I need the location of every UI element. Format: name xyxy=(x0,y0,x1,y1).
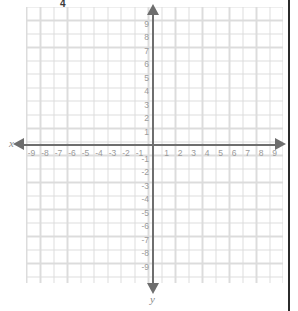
x-axis-tick-label: 4 xyxy=(200,149,214,158)
x-axis-tick-label: 8 xyxy=(254,149,268,158)
y-axis-tick-label: -5 xyxy=(135,209,149,218)
coordinate-plane-figure: x y 4 -9-8-7-6-5-4-3-2-11234567899876543… xyxy=(0,0,297,311)
y-axis-tick-label: 5 xyxy=(135,74,149,83)
top-annotation-mark: 4 xyxy=(60,0,66,9)
y-axis-tick-label: -7 xyxy=(135,236,149,245)
page-right-margin xyxy=(290,0,298,311)
y-axis-tick-label: 7 xyxy=(135,47,149,56)
y-axis-tick-label: -3 xyxy=(135,182,149,191)
y-axis-tick-label: 9 xyxy=(135,20,149,29)
x-axis-tick-label: -7 xyxy=(52,149,66,158)
x-axis-tick-label: -4 xyxy=(92,149,106,158)
x-axis-tick-label: -3 xyxy=(106,149,120,158)
x-axis-tick-label: 7 xyxy=(241,149,255,158)
x-axis-tick-label: -8 xyxy=(38,149,52,158)
y-axis-tick-label: 3 xyxy=(135,101,149,110)
y-axis-label: y xyxy=(150,294,155,305)
x-axis-tick-label: -5 xyxy=(79,149,93,158)
x-axis-tick-label: 1 xyxy=(160,149,174,158)
y-axis-tick-label: -4 xyxy=(135,195,149,204)
y-axis-up-arrow-icon xyxy=(147,4,159,15)
y-axis-line xyxy=(152,14,154,285)
y-axis-tick-label: 8 xyxy=(135,33,149,42)
x-axis-tick-label: 6 xyxy=(227,149,241,158)
x-axis-tick-label: 2 xyxy=(173,149,187,158)
x-axis-tick-label: 5 xyxy=(214,149,228,158)
x-axis-label: x xyxy=(9,138,14,149)
y-axis-tick-label: 6 xyxy=(135,60,149,69)
y-axis-tick-label: -2 xyxy=(135,168,149,177)
y-axis-tick-label: 1 xyxy=(135,128,149,137)
x-axis-tick-label: 3 xyxy=(187,149,201,158)
x-axis-line xyxy=(22,144,277,146)
y-axis-tick-label: 4 xyxy=(135,87,149,96)
x-axis-tick-label: 9 xyxy=(268,149,282,158)
y-axis-tick-label: -6 xyxy=(135,222,149,231)
y-axis-tick-label: 2 xyxy=(135,114,149,123)
y-axis-tick-label: -8 xyxy=(135,249,149,258)
x-axis-tick-label: -2 xyxy=(119,149,133,158)
y-axis-tick-label: -1 xyxy=(135,155,149,164)
x-axis-tick-label: -6 xyxy=(65,149,79,158)
x-axis-left-arrow-icon xyxy=(13,138,24,150)
x-axis-tick-label: -9 xyxy=(25,149,39,158)
y-axis-tick-label: -9 xyxy=(135,263,149,272)
